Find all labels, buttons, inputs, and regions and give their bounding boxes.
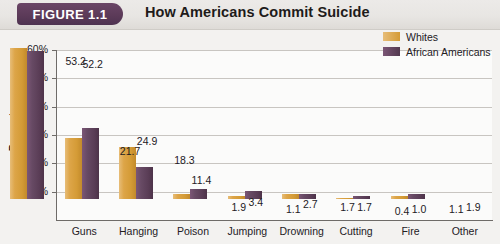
chart-legend: Whites African Americans xyxy=(383,29,491,59)
bar-fire-african-americans xyxy=(353,196,370,199)
x-axis-line xyxy=(56,220,493,221)
bar-guns-african-americans xyxy=(27,51,44,199)
value-label: 1.7 xyxy=(348,201,382,213)
value-label: 3.4 xyxy=(239,196,273,208)
category-label-poison: Poison xyxy=(166,225,220,237)
category-label-drowning: Drowning xyxy=(275,225,329,237)
legend-item-african-americans: African Americans xyxy=(383,44,491,59)
bar-other-african-americans xyxy=(408,194,425,199)
figure-header: FIGURE 1.1 How Americans Commit Suicide xyxy=(0,0,500,30)
figure-number-badge: FIGURE 1.1 xyxy=(17,3,123,25)
bar-poison-african-americans xyxy=(136,167,153,199)
category-label-hanging: Hanging xyxy=(111,225,165,237)
bar-jumping-african-americans xyxy=(190,189,207,199)
value-label: 24.9 xyxy=(130,135,164,147)
bar-jumping-whites xyxy=(173,194,190,199)
bar-hanging-african-americans xyxy=(82,128,99,199)
value-label: 2.7 xyxy=(293,198,327,210)
value-label: 1.0 xyxy=(402,203,436,215)
bar-guns-whites xyxy=(10,48,27,199)
figure-root: FIGURE 1.1 How Americans Commit Suicide … xyxy=(0,0,500,244)
category-label-guns: Guns xyxy=(57,225,111,237)
value-label: 1.9 xyxy=(456,201,490,213)
category-label-fire: Fire xyxy=(383,225,437,237)
value-label: 18.3 xyxy=(167,154,201,166)
figure-title: How Americans Commit Suicide xyxy=(145,4,370,20)
category-label-cutting: Cutting xyxy=(329,225,383,237)
bar-other-whites xyxy=(391,196,408,199)
value-label: 52.2 xyxy=(76,58,110,70)
value-label: 11.4 xyxy=(184,174,218,186)
legend-swatch-whites xyxy=(383,32,400,41)
legend-item-whites: Whites xyxy=(383,29,491,44)
legend-swatch-african-americans xyxy=(383,47,400,56)
bar-fire-whites xyxy=(336,198,353,200)
chart-area: Percentage 10%20%30%40%50%60% 53.252.221… xyxy=(0,29,500,244)
category-label-other: Other xyxy=(438,225,492,237)
legend-label-whites: Whites xyxy=(406,31,438,43)
category-label-jumping: Jumping xyxy=(220,225,274,237)
figure-number-label: FIGURE 1.1 xyxy=(33,7,108,22)
legend-label-african-americans: African Americans xyxy=(406,46,491,58)
bar-hanging-whites xyxy=(65,138,82,199)
